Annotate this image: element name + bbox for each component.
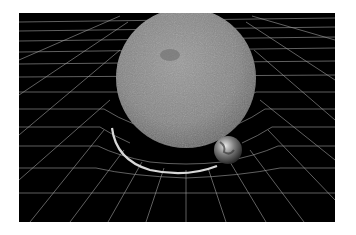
- sun: [116, 13, 256, 148]
- illustration-canvas: [19, 13, 335, 222]
- earth: [214, 136, 242, 164]
- spacetime-illustration: [19, 13, 335, 222]
